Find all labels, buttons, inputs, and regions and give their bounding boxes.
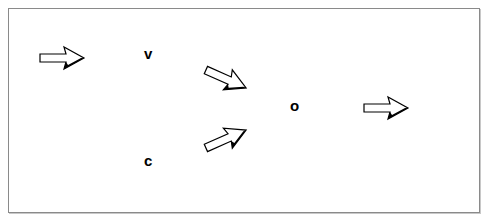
output-arrow-icon (362, 95, 412, 123)
node-c-label: c (144, 153, 152, 168)
v-to-o-arrow-icon (198, 62, 256, 98)
c-to-o-arrow-icon (198, 120, 256, 156)
node-o-label: o (290, 98, 299, 113)
input-arrow-icon (38, 45, 88, 73)
node-v-label: v (144, 46, 152, 61)
